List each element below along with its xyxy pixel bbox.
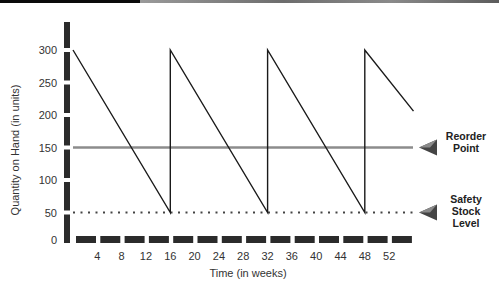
x-tick-label: 8 — [119, 250, 125, 262]
y-tick-label: 150 — [39, 142, 57, 154]
y-tick-label: 50 — [45, 207, 57, 219]
y-axis-segment — [64, 215, 70, 244]
x-axis-segment — [392, 236, 412, 243]
x-axis-segment — [173, 236, 193, 243]
safety-stock-label: Stock — [452, 205, 481, 217]
x-axis-segment — [319, 236, 339, 243]
x-axis-segment — [125, 236, 145, 243]
x-axis-segment — [295, 236, 315, 243]
inventory-chart: 300250200150100500 481216202428323640444… — [0, 0, 499, 289]
y-axis: 300250200150100500 — [39, 22, 70, 246]
x-axis-segment — [222, 236, 242, 243]
safety-stock-label: Safety — [450, 193, 482, 205]
annotations: ReorderPointSafetyStockLevel — [419, 130, 486, 229]
y-axis-segment — [64, 85, 70, 114]
y-tick-label: 0 — [51, 234, 57, 246]
reference-lines — [73, 148, 415, 213]
safety-stock-label: Level — [453, 217, 480, 229]
y-axis-label: Quantity on Hand (in units) — [9, 85, 21, 216]
y-axis-segment — [64, 52, 70, 81]
x-axis: 481216202428323640444852 — [76, 236, 412, 262]
x-axis-segment — [343, 236, 363, 243]
x-axis-label: Time (in weeks) — [209, 267, 286, 279]
inventory-series — [73, 50, 414, 213]
x-tick-label: 4 — [94, 250, 100, 262]
x-tick-label: 36 — [286, 250, 298, 262]
x-tick-label: 48 — [359, 250, 371, 262]
x-axis-segment — [246, 236, 266, 243]
x-axis-segment — [368, 236, 388, 243]
y-tick-label: 300 — [39, 44, 57, 56]
y-axis-segment — [64, 117, 70, 146]
y-axis-segment — [64, 22, 70, 48]
reorder-point-label: Point — [453, 142, 480, 154]
x-axis-segment — [100, 236, 120, 243]
x-tick-label: 40 — [310, 250, 322, 262]
y-tick-label: 250 — [39, 77, 57, 89]
x-axis-segment — [198, 236, 218, 243]
x-axis-segment — [270, 236, 290, 243]
x-tick-label: 28 — [237, 250, 249, 262]
x-tick-label: 16 — [164, 250, 176, 262]
reorder-point-label: Reorder — [446, 130, 486, 142]
x-tick-label: 24 — [213, 250, 225, 262]
x-tick-label: 52 — [383, 250, 395, 262]
x-tick-label: 20 — [188, 250, 200, 262]
x-axis-segment — [76, 236, 96, 243]
inventory-line — [73, 50, 414, 213]
y-axis-segment — [64, 182, 70, 211]
y-axis-segment — [64, 150, 70, 179]
x-tick-label: 44 — [334, 250, 346, 262]
x-tick-label: 12 — [140, 250, 152, 262]
y-tick-label: 100 — [39, 174, 57, 186]
y-tick-label: 200 — [39, 109, 57, 121]
x-tick-label: 32 — [261, 250, 273, 262]
x-axis-segment — [149, 236, 169, 243]
